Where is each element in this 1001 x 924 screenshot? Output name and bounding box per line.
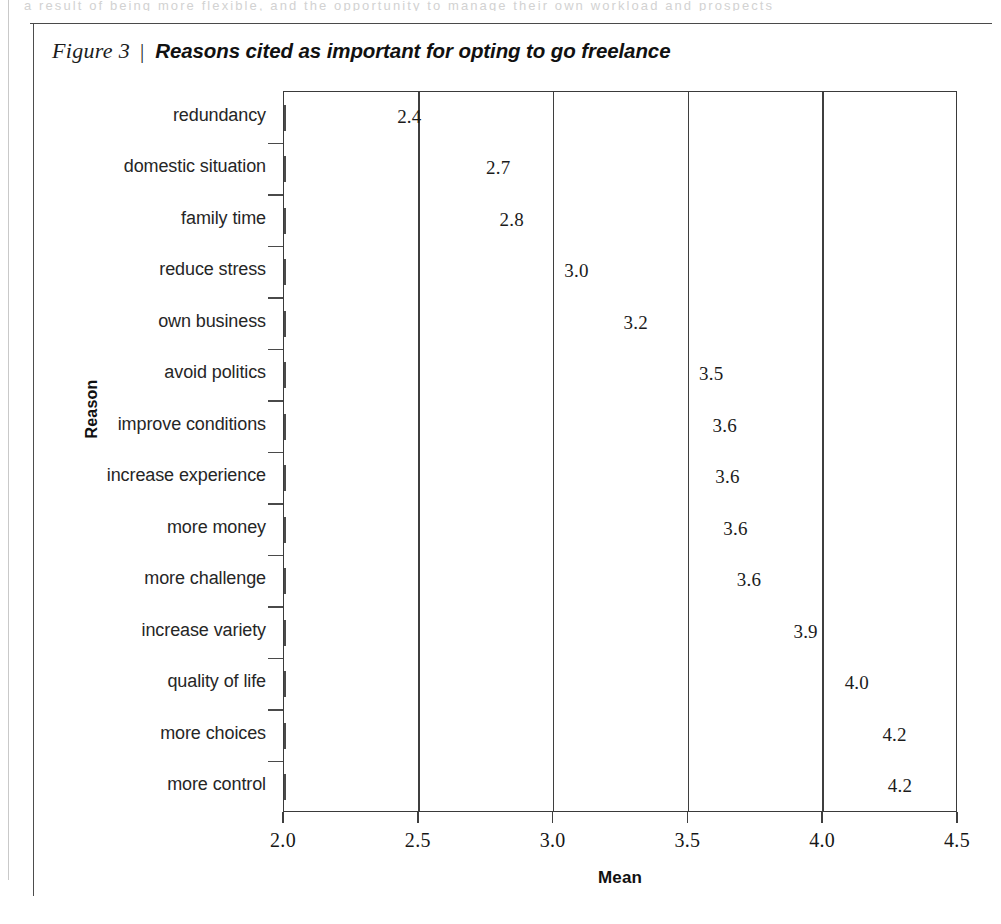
bar-value-label: 2.4 (397, 106, 421, 128)
bar-redundancy[interactable] (284, 105, 389, 131)
bar-increase-variety[interactable] (284, 620, 785, 646)
x-axis-tick-label: 2.0 (270, 829, 296, 852)
x-axis-tick-label: 3.0 (540, 829, 566, 852)
bar-domestic-situation[interactable] (284, 156, 478, 182)
x-axis-tick-label: 4.5 (944, 829, 970, 852)
bar-family-time[interactable] (284, 208, 492, 234)
x-axis-tick (687, 812, 689, 823)
bar-fill (284, 414, 286, 440)
bar-fill (284, 208, 286, 234)
bar-value-label: 2.8 (500, 209, 524, 231)
bar-value-label: 3.2 (624, 312, 648, 334)
y-axis-tick (268, 761, 283, 763)
bar-avoid-politics[interactable] (284, 362, 691, 388)
bar-fill (284, 105, 286, 131)
y-axis-tick (268, 606, 283, 608)
bar-more-control[interactable] (284, 774, 880, 800)
bar-fill (284, 311, 286, 337)
bar-increase-experience[interactable] (284, 465, 707, 491)
category-label-family-time: family time (181, 208, 266, 229)
bar-value-label: 4.2 (882, 724, 906, 746)
x-axis-tick-label: 4.0 (809, 829, 835, 852)
category-label-more-money: more money (167, 517, 266, 538)
bar-fill (284, 156, 286, 182)
bar-more-money[interactable] (284, 517, 715, 543)
bar-fill (284, 774, 286, 800)
bar-chart: Reason redundancydomestic situationfamil… (0, 0, 1001, 924)
category-label-increase-variety: increase variety (142, 620, 266, 641)
bar-fill (284, 517, 286, 543)
bar-value-label: 3.0 (564, 260, 588, 282)
y-axis-tick (268, 194, 283, 196)
y-axis-tick (268, 555, 283, 557)
y-axis-tick (268, 349, 283, 351)
y-axis-tick (268, 709, 283, 711)
category-label-quality-of-life: quality of life (167, 671, 266, 692)
x-axis-tick (821, 812, 823, 823)
y-axis-tick (268, 452, 283, 454)
category-label-increase-experience: increase experience (107, 465, 266, 486)
x-axis-tick (417, 812, 419, 823)
gridline-2-5 (418, 92, 420, 811)
bar-more-challenge[interactable] (284, 568, 729, 594)
bar-value-label: 4.2 (888, 775, 912, 797)
category-label-domestic-situation: domestic situation (124, 156, 266, 177)
bar-value-label: 3.9 (793, 621, 817, 643)
y-axis-tick (268, 658, 283, 660)
category-label-own-business: own business (158, 311, 266, 332)
bar-reduce-stress[interactable] (284, 259, 556, 285)
x-axis-tick (956, 812, 958, 823)
y-axis-tick (268, 297, 283, 299)
bar-fill (284, 568, 286, 594)
bar-value-label: 3.6 (713, 415, 737, 437)
category-label-improve-conditions: improve conditions (118, 414, 266, 435)
x-axis-tick-label: 2.5 (405, 829, 431, 852)
category-label-redundancy: redundancy (173, 105, 266, 126)
category-label-column: redundancydomestic situationfamily timer… (60, 91, 266, 812)
y-axis-tick (268, 503, 283, 505)
bar-fill (284, 362, 286, 388)
bar-value-label: 2.7 (486, 157, 510, 179)
bar-improve-conditions[interactable] (284, 414, 705, 440)
bar-fill (284, 465, 286, 491)
plot-area (283, 91, 957, 812)
gridline-3-5 (688, 92, 690, 811)
bar-fill (284, 259, 286, 285)
bar-quality-of-life[interactable] (284, 671, 837, 697)
category-label-more-control: more control (167, 774, 266, 795)
y-axis-tick (268, 400, 283, 402)
y-axis-tick (268, 143, 283, 145)
x-axis-tick-label: 3.5 (674, 829, 700, 852)
bar-own-business[interactable] (284, 311, 616, 337)
category-label-reduce-stress: reduce stress (159, 259, 266, 280)
bar-fill (284, 671, 286, 697)
x-axis-tick (552, 812, 554, 823)
bar-value-label: 3.5 (699, 363, 723, 385)
bar-fill (284, 620, 286, 646)
y-axis-tick (268, 246, 283, 248)
x-axis-title: Mean (283, 868, 957, 888)
gridline-3 (553, 92, 555, 811)
bar-value-label: 3.6 (723, 518, 747, 540)
bar-value-label: 4.0 (845, 672, 869, 694)
bar-value-label: 3.6 (737, 569, 761, 591)
bar-value-label: 3.6 (715, 466, 739, 488)
bar-more-choices[interactable] (284, 723, 874, 749)
category-label-more-challenge: more challenge (144, 568, 266, 589)
bar-fill (284, 723, 286, 749)
gridline-4 (822, 92, 824, 811)
category-label-avoid-politics: avoid politics (164, 362, 266, 383)
category-label-more-choices: more choices (160, 723, 266, 744)
x-axis-tick (282, 812, 284, 823)
